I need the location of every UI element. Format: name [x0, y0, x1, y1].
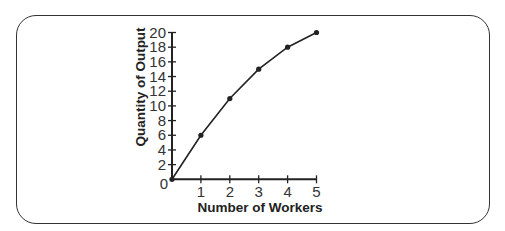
data-point — [314, 30, 319, 35]
x-axis-label: Number of Workers — [197, 200, 322, 215]
y-tick-label: 6 — [158, 126, 166, 143]
y-tick-label: 18 — [149, 38, 166, 55]
x-tick-label: 2 — [226, 183, 234, 200]
data-point — [256, 67, 261, 72]
x-tick-label: 5 — [312, 183, 320, 200]
y-tick-label: 4 — [158, 141, 166, 158]
x-tick-label: 4 — [283, 183, 291, 200]
data-point — [285, 45, 290, 50]
y-tick-label: 2 — [158, 156, 166, 173]
y-tick-label: 14 — [149, 68, 166, 85]
x-tick-label: 1 — [197, 183, 205, 200]
axes — [172, 33, 317, 180]
x-tick-label: 3 — [255, 183, 263, 200]
y-tick-label: 16 — [149, 53, 166, 70]
series-line — [172, 33, 317, 180]
data-point — [169, 177, 174, 182]
series — [169, 30, 319, 182]
data-point — [198, 133, 203, 138]
y-tick-label: 20 — [149, 24, 166, 41]
y-tick-label: 10 — [149, 97, 166, 114]
y-axis-label: Quantity of Output — [133, 27, 148, 147]
data-point — [227, 96, 232, 101]
y-tick-label: 12 — [149, 82, 166, 99]
y-tick-label: 8 — [158, 112, 166, 129]
origin-label: 0 — [160, 175, 168, 192]
production-chart: 1234524681012141618200 Number of Workers… — [0, 0, 505, 231]
